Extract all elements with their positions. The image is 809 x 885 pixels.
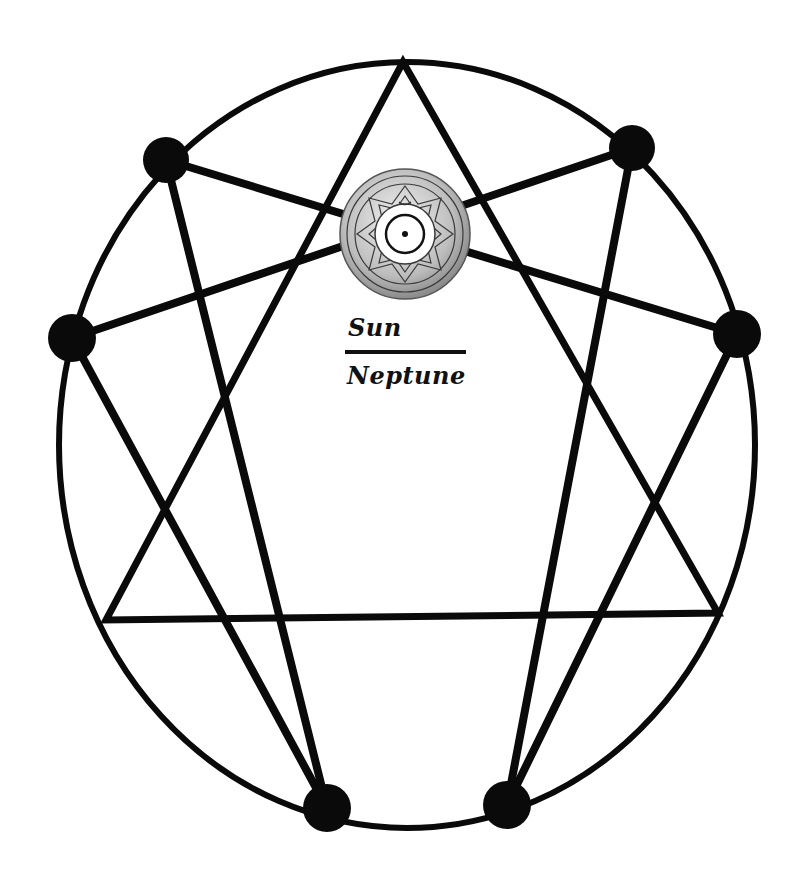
enneagram-diagram: [0, 0, 809, 885]
line-top-right-to-bottom-right: [507, 148, 632, 805]
node-right: [713, 310, 761, 358]
label-sun: Sun: [348, 316, 402, 340]
node-top-left: [143, 137, 189, 183]
node-left: [48, 314, 96, 362]
node-top-right: [609, 125, 655, 171]
fraction-divider: [345, 350, 466, 354]
line-left-to-bottom-left: [72, 338, 327, 808]
label-neptune: Neptune: [347, 364, 466, 388]
node-bottom-right: [483, 781, 531, 829]
sun-mandala-icon: [340, 169, 470, 299]
node-bottom-left: [303, 784, 351, 832]
line-right-to-bottom-right: [507, 334, 737, 805]
